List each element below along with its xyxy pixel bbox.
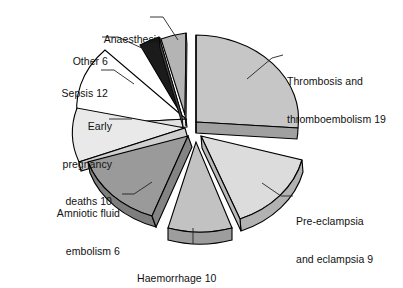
label-amniotic-line2: embolism 6 — [6, 245, 120, 258]
label-pre-eclampsia-line2: and eclampsia 9 — [296, 253, 373, 266]
label-pre-eclampsia-line1: Pre-eclampsia — [296, 215, 373, 228]
label-early-line3: deaths 10 — [12, 195, 112, 208]
label-haemorrhage-text: Haemorrhage 10 — [137, 272, 217, 285]
label-thrombosis-line1: Thrombosis and — [287, 75, 386, 88]
label-thrombosis: Thrombosis and thromboembolism 19 — [287, 50, 386, 150]
label-anaesthesia: Anaesthesia — [70, 8, 162, 71]
label-early-line2: pregnancy — [12, 158, 112, 171]
label-pre-eclampsia: Pre-eclampsia and eclampsia 9 — [296, 190, 373, 288]
slice-thrombosis — [196, 35, 299, 139]
label-anaesthesia-text: Anaesthesia — [70, 33, 162, 46]
label-thrombosis-line2: thromboembolism 19 — [287, 113, 386, 126]
label-haemorrhage: Haemorrhage 10 — [137, 247, 217, 288]
